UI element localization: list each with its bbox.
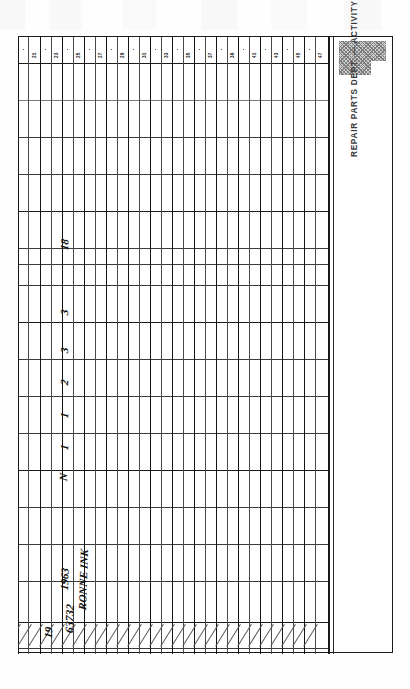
column-header: 23 (54, 53, 59, 58)
grid-vline (293, 37, 294, 654)
grid-vline (73, 37, 74, 654)
grid-vline (106, 37, 107, 654)
column-header: 45 (296, 53, 301, 58)
handwritten-qty: 1 (58, 412, 70, 419)
column-header: 41 (252, 53, 257, 58)
grid-hline (18, 63, 330, 64)
grid-hline (18, 470, 330, 471)
grid-vline (139, 37, 140, 654)
handwritten-line-number: 19 (42, 626, 54, 639)
grid-vline (172, 37, 173, 654)
grid-vline (227, 37, 228, 654)
header-dot (309, 49, 310, 50)
grid-vline (28, 37, 29, 654)
grid-vline (271, 37, 272, 654)
header-dot (287, 49, 288, 50)
handwritten-year: 1963 (58, 567, 71, 591)
grid-vline (150, 37, 151, 654)
handwritten-qty: 2 (58, 379, 70, 386)
grid-vline (315, 37, 316, 654)
grid-vline (260, 37, 261, 654)
header-dot (111, 49, 112, 50)
grid-right-border-secondary (333, 37, 334, 654)
column-header: 37 (208, 53, 213, 58)
column-header: 35 (186, 53, 191, 58)
grid-hline (18, 507, 330, 508)
column-header: 25 (76, 53, 81, 58)
header-dot (265, 49, 266, 50)
column-header-row: 21 23 25 27 29 31 33 35 37 39 (18, 37, 330, 63)
ledger-card: 21 23 25 27 29 31 33 35 37 39 (18, 36, 393, 653)
grid-hline (18, 433, 330, 434)
handwritten-code: N (57, 472, 69, 482)
header-dot (155, 49, 156, 50)
handwritten-qty: 18 (58, 238, 70, 251)
grid-vline (194, 37, 195, 654)
card-caption: REPAIR PARTS DEPT. — ACTIVITY — STORES R… (350, 0, 359, 157)
grid-hline (18, 264, 330, 265)
grid-hline (18, 211, 330, 212)
grid-hline (18, 322, 330, 323)
column-header: 39 (230, 53, 235, 58)
grid-vline (304, 37, 305, 654)
ruled-grid-region: 21 23 25 27 29 31 33 35 37 39 (18, 37, 330, 654)
grid-vline (216, 37, 217, 654)
header-dot (199, 49, 200, 50)
hatched-block-notch (371, 61, 386, 75)
grid-vline (205, 37, 206, 654)
header-dot (67, 49, 68, 50)
scanned-page: 21 23 25 27 29 31 33 35 37 39 (0, 0, 410, 689)
grid-hline (18, 174, 330, 175)
handwritten-qty: 3 (58, 347, 70, 354)
grid-hline (18, 544, 330, 545)
handwritten-qty: 3 (58, 309, 70, 316)
grid-vline (18, 37, 19, 654)
handwritten-part-number: 63732 (63, 603, 76, 633)
grid-vline (128, 37, 129, 654)
grid-vline (183, 37, 184, 654)
grid-hline (18, 137, 330, 138)
grid-hline (18, 285, 330, 286)
header-dot (243, 49, 244, 50)
grid-vline (62, 37, 63, 654)
column-header: 31 (142, 53, 147, 58)
column-header: 47 (318, 53, 323, 58)
column-header: 21 (32, 53, 37, 58)
grid-right-border (328, 37, 330, 654)
header-dot (23, 49, 24, 50)
header-dot (89, 49, 90, 50)
grid-vline (51, 37, 52, 654)
handwritten-name: RONNE INK (76, 548, 90, 610)
header-dot (177, 49, 178, 50)
header-dot (45, 49, 46, 50)
handwritten-qty: 1 (58, 444, 70, 451)
grid-hline (18, 359, 330, 360)
header-dot (133, 49, 134, 50)
grid-vline (40, 37, 41, 654)
scan-noise-band (0, 0, 410, 30)
header-dot (221, 49, 222, 50)
slash-mark (303, 624, 318, 647)
grid-vline (282, 37, 283, 654)
grid-hline (18, 396, 330, 397)
column-header: 33 (164, 53, 169, 58)
column-header: 29 (120, 53, 125, 58)
grid-vline (238, 37, 239, 654)
column-header: 43 (274, 53, 279, 58)
grid-vline (249, 37, 250, 654)
grid-hline (18, 100, 330, 101)
column-header: 27 (98, 53, 103, 58)
grid-vline (161, 37, 162, 654)
grid-vline (117, 37, 118, 654)
grid-vline (95, 37, 96, 654)
